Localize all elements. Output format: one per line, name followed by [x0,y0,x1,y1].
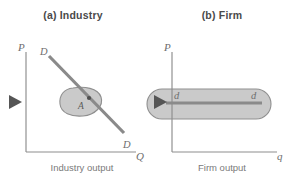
firm-curve-label-right: d [251,90,257,101]
panel-firm-title: (b) Firm [202,9,243,21]
panel-firm: (b) Firm P q d d Firm output [147,9,283,173]
industry-x-axis-label: Q [136,150,144,162]
industry-curve-label-bottom: D [122,139,131,150]
panel-industry: (a) Industry P Q D D A Industry output [9,9,144,173]
industry-x-caption: Industry output [51,162,114,173]
industry-demand-curve [49,56,124,133]
firm-x-axis-label: q [277,150,283,162]
industry-price-level-triangle-icon [9,95,22,109]
industry-y-axis-label: P [17,41,25,53]
industry-equilibrium-label: A [77,101,84,111]
panel-industry-title: (a) Industry [43,9,103,21]
firm-y-axis-label: P [163,41,171,53]
firm-curve-label-left: d [174,90,180,101]
industry-curve-label-top: D [39,46,48,57]
industry-equilibrium-dot [87,96,91,100]
firm-x-caption: Firm output [198,162,246,173]
economics-figure: (a) Industry P Q D D A Industry output (… [0,0,290,182]
